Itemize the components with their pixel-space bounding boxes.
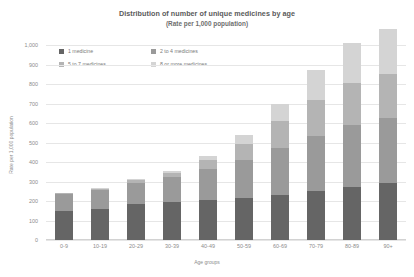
bar-slot bbox=[262, 45, 298, 240]
bar-segment[interactable] bbox=[271, 195, 289, 240]
bar-segment[interactable] bbox=[235, 144, 253, 161]
bar-segment[interactable] bbox=[235, 135, 253, 144]
x-axis-tick-label: 0-9 bbox=[46, 243, 82, 249]
bar-segment[interactable] bbox=[379, 118, 397, 183]
y-axis-tick-label: 400 bbox=[29, 159, 38, 165]
stacked-bar[interactable] bbox=[379, 29, 397, 240]
bar-segment[interactable] bbox=[199, 200, 217, 240]
bar-segment[interactable] bbox=[127, 183, 145, 204]
bar-segment[interactable] bbox=[343, 83, 361, 125]
bar-segment[interactable] bbox=[307, 100, 325, 136]
bar-segment[interactable] bbox=[199, 169, 217, 200]
bar-segment[interactable] bbox=[343, 43, 361, 83]
stacked-bar[interactable] bbox=[127, 179, 145, 240]
y-axis-title: Rate per 1,000 population bbox=[8, 110, 14, 180]
stacked-bar[interactable] bbox=[271, 104, 289, 240]
stacked-bar[interactable] bbox=[307, 70, 325, 240]
bar-slot bbox=[118, 45, 154, 240]
bar-segment[interactable] bbox=[163, 202, 181, 240]
bar-segment[interactable] bbox=[235, 198, 253, 240]
bar-segment[interactable] bbox=[343, 125, 361, 187]
bar-segment[interactable] bbox=[379, 74, 397, 118]
chart-container: Distribution of number of unique medicin… bbox=[0, 0, 414, 277]
y-axis-tick-label: 100 bbox=[29, 218, 38, 224]
x-axis-title: Age groups bbox=[0, 259, 414, 265]
bar-segment[interactable] bbox=[235, 160, 253, 198]
y-axis-tick-label: 600 bbox=[29, 120, 38, 126]
stacked-bar[interactable] bbox=[55, 193, 73, 240]
stacked-bar[interactable] bbox=[199, 156, 217, 240]
x-axis-tick-label: 80-89 bbox=[334, 243, 370, 249]
x-axis-tick-label: 10-19 bbox=[82, 243, 118, 249]
bar-segment[interactable] bbox=[307, 70, 325, 99]
bar-slot bbox=[226, 45, 262, 240]
bar-segment[interactable] bbox=[343, 187, 361, 240]
x-axis-tick-label: 40-49 bbox=[190, 243, 226, 249]
bar-slot bbox=[190, 45, 226, 240]
bar-segment[interactable] bbox=[379, 183, 397, 240]
stacked-bar[interactable] bbox=[91, 188, 109, 240]
x-axis: 0-910-1920-2930-3940-4950-5960-6970-7980… bbox=[46, 243, 406, 249]
bar-segment[interactable] bbox=[55, 194, 73, 211]
y-axis-tick-label: 1,000 bbox=[25, 42, 39, 48]
stacked-bar[interactable] bbox=[235, 135, 253, 240]
y-axis-tick-label: 300 bbox=[29, 179, 38, 185]
stacked-bar[interactable] bbox=[163, 171, 181, 240]
bar-segment[interactable] bbox=[307, 191, 325, 240]
x-axis-tick-label: 30-39 bbox=[154, 243, 190, 249]
x-axis-tick-label: 90+ bbox=[370, 243, 406, 249]
bar-segment[interactable] bbox=[91, 209, 109, 240]
bar-group bbox=[46, 45, 406, 240]
bar-slot bbox=[82, 45, 118, 240]
bar-segment[interactable] bbox=[271, 121, 289, 148]
y-axis-tick-label: 0 bbox=[35, 237, 38, 243]
bar-slot bbox=[154, 45, 190, 240]
y-axis: 01002003004005006007008009001,000 bbox=[0, 45, 42, 240]
y-axis-tick-label: 800 bbox=[29, 81, 38, 87]
y-axis-tick-label: 900 bbox=[29, 62, 38, 68]
gridline bbox=[46, 240, 406, 241]
x-axis-tick-label: 60-69 bbox=[262, 243, 298, 249]
y-axis-tick-label: 500 bbox=[29, 140, 38, 146]
bar-segment[interactable] bbox=[127, 204, 145, 240]
bar-segment[interactable] bbox=[271, 104, 289, 122]
x-axis-tick-label: 50-59 bbox=[226, 243, 262, 249]
y-axis-tick-label: 700 bbox=[29, 101, 38, 107]
y-axis-tick-label: 200 bbox=[29, 198, 38, 204]
bar-segment[interactable] bbox=[379, 29, 397, 74]
bar-segment[interactable] bbox=[163, 177, 181, 202]
bar-slot bbox=[370, 45, 406, 240]
bar-segment[interactable] bbox=[91, 190, 109, 209]
x-axis-tick-label: 70-79 bbox=[298, 243, 334, 249]
bar-segment[interactable] bbox=[199, 160, 217, 169]
chart-title: Distribution of number of unique medicin… bbox=[0, 9, 414, 19]
bar-slot bbox=[298, 45, 334, 240]
x-axis-tick-label: 20-29 bbox=[118, 243, 154, 249]
bar-segment[interactable] bbox=[307, 136, 325, 192]
chart-subtitle: (Rate per 1,000 population) bbox=[0, 19, 414, 29]
plot-area bbox=[46, 45, 406, 240]
bar-segment[interactable] bbox=[271, 148, 289, 195]
bar-slot bbox=[334, 45, 370, 240]
stacked-bar[interactable] bbox=[343, 43, 361, 240]
chart-title-block: Distribution of number of unique medicin… bbox=[0, 9, 414, 29]
bar-segment[interactable] bbox=[55, 211, 73, 240]
bar-slot bbox=[46, 45, 82, 240]
